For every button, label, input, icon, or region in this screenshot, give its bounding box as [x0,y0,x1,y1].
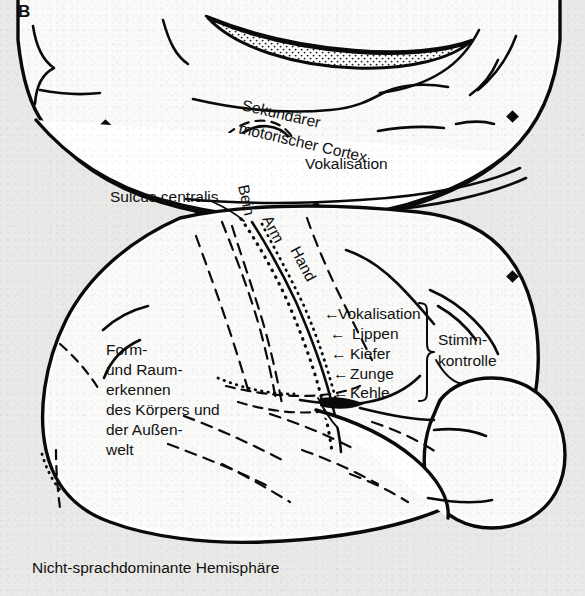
vokalisation-side-label: Vokalisation [338,305,421,322]
zunge-arrow-icon: ← [333,365,349,382]
figure-caption: Nicht-sprachdominante Hemisphäre [32,559,279,576]
kehle-arrow-icon: ← [333,384,349,401]
vokalisation-top-label: Vokalisation [305,155,388,172]
kehle-label: Kehle [350,384,390,401]
lippen-arrow-icon: ← [330,325,346,342]
panel-label: B [18,2,30,21]
kiefer-label: Kiefer [350,345,391,362]
stimmkontrolle-label-line2: kontrolle [438,352,497,369]
stimmkontrolle-label-line1: Stimm- [438,331,487,348]
kiefer-arrow-icon: ← [331,345,347,362]
form-label-line6: welt [105,441,134,458]
lippen-label: Lippen [352,325,399,342]
brain-diagram-figure: B Sekundärer motorischer Cortex Vokalisa… [0,0,585,596]
form-label-line3: erkennen [106,381,171,398]
form-label-line1: Form- [106,341,147,358]
form-label-line4: des Körpers und [106,401,220,418]
form-label-line2: und Raum- [106,361,183,378]
zunge-label: Zunge [350,365,394,382]
sulcus-centralis-label: Sulcus centralis [110,188,219,205]
brain-diagram-svg: B Sekundärer motorischer Cortex Vokalisa… [0,0,585,596]
form-label-line5: der Außen- [106,421,183,438]
